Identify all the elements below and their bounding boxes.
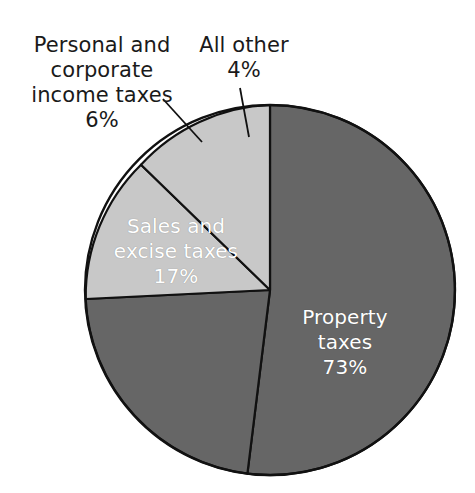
slice-label-property-taxes: Property taxes 73% <box>280 305 410 380</box>
pie-slice-property-taxes[interactable] <box>247 105 455 475</box>
slice-label-sales-and-excise-taxes: Sales and excise taxes 17% <box>98 214 254 289</box>
pie-chart-figure: Personal and corporate income taxes 6% A… <box>0 0 475 493</box>
callout-personal-and-corporate-income-taxes: Personal and corporate income taxes 6% <box>4 33 200 133</box>
pie-slice-sales-and-excise-taxes[interactable] <box>86 290 270 474</box>
callout-all-other: All other 4% <box>186 33 302 83</box>
